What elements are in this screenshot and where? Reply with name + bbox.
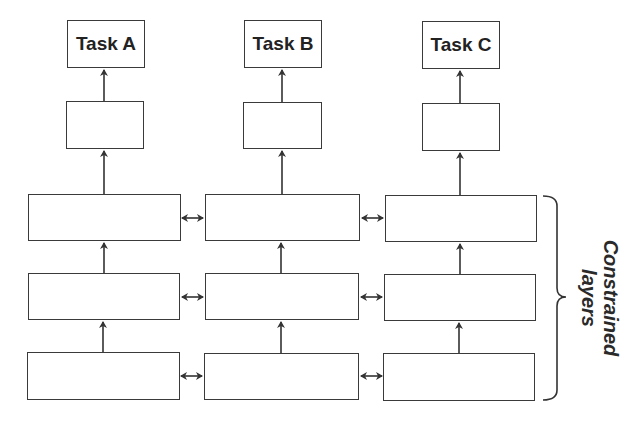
task-b-box: Task B — [244, 20, 322, 68]
head-a-box — [66, 101, 144, 149]
layer-r3-c1 — [27, 352, 180, 400]
label-line-2: layers — [578, 240, 600, 357]
head-c-box — [422, 103, 500, 151]
layer-r2-c2 — [205, 273, 359, 320]
layer-r1-c1 — [28, 194, 181, 241]
task-a-label: Task A — [76, 33, 136, 55]
head-b-box — [243, 102, 322, 149]
task-c-label: Task C — [431, 34, 492, 56]
constrained-layers-label: Constrained layers — [578, 240, 622, 357]
layer-r3-c2 — [204, 353, 359, 400]
task-c-box: Task C — [422, 21, 500, 69]
layer-r1-c3 — [385, 195, 537, 242]
layer-r2-c3 — [384, 274, 536, 321]
layer-r1-c2 — [205, 194, 360, 241]
layer-r2-c1 — [28, 273, 180, 320]
label-line-1: Constrained — [600, 240, 622, 357]
task-a-box: Task A — [67, 20, 145, 68]
task-b-label: Task B — [253, 33, 314, 55]
brace-icon — [543, 196, 566, 400]
layer-r3-c3 — [383, 353, 535, 401]
